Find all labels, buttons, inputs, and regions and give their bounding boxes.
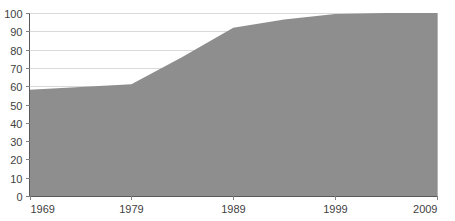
y-tick-label-70: 70 — [10, 63, 22, 75]
y-tick-label-30: 30 — [10, 136, 22, 148]
y-tick-label-90: 90 — [10, 26, 22, 38]
y-tick-label-0: 0 — [16, 191, 22, 203]
x-tick-label-1979: 1979 — [119, 203, 143, 215]
y-tick-label-40: 40 — [10, 118, 22, 130]
area-chart: 0102030405060708090100 19691979198919992… — [0, 0, 455, 221]
y-axis-ticks-group: 0102030405060708090100 — [4, 8, 29, 203]
y-tick-label-20: 20 — [10, 154, 22, 166]
y-tick-label-60: 60 — [10, 81, 22, 93]
x-tick-label-1989: 1989 — [221, 203, 245, 215]
x-axis-ticks-group: 19691979198919992009 — [31, 196, 438, 215]
y-tick-label-80: 80 — [10, 45, 22, 57]
x-tick-label-1969: 1969 — [31, 203, 55, 215]
area-series-path — [30, 13, 438, 196]
y-tick-label-100: 100 — [4, 8, 22, 20]
area-chart-container: 0102030405060708090100 19691979198919992… — [0, 0, 455, 221]
y-tick-label-10: 10 — [10, 173, 22, 185]
x-tick-label-1999: 1999 — [323, 203, 347, 215]
x-tick-label-2009: 2009 — [413, 203, 437, 215]
area-series-group — [30, 13, 438, 196]
y-tick-label-50: 50 — [10, 100, 22, 112]
